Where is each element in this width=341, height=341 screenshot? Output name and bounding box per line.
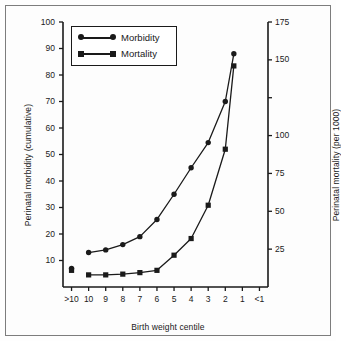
data-point-mortality: [154, 268, 159, 273]
legend-entry-mortality: Mortality: [78, 46, 157, 62]
data-point-morbidity: [231, 51, 236, 56]
data-point-mortality: [206, 203, 211, 208]
x-axis-title: Birth weight centile: [0, 322, 336, 332]
data-point-morbidity: [188, 165, 193, 170]
y-axis-left-tick-label: 100: [29, 17, 55, 27]
series-line-mortality: [89, 66, 234, 275]
y-axis-right-tick-label: 75: [275, 168, 305, 178]
y-axis-left-tick-label: 80: [29, 70, 55, 80]
y-axis-right-tick-label: 100: [275, 130, 305, 140]
data-point-morbidity: [171, 192, 176, 197]
y-axis-right-tick-label: 150: [275, 54, 305, 64]
chart-legend: Morbidity Mortality: [71, 26, 177, 66]
legend-label-morbidity: Morbidity: [121, 33, 160, 43]
y-axis-left-tick-label: 70: [29, 96, 55, 106]
data-point-mortality: [86, 272, 91, 277]
y-axis-right-tick-label: 25: [275, 244, 305, 254]
y-axis-left-tick-label: 10: [29, 255, 55, 265]
y-axis-left-tick-label: 60: [29, 123, 55, 133]
y-axis-right-tick-label: 50: [275, 206, 305, 216]
series-line-morbidity: [89, 54, 234, 253]
data-point-morbidity: [120, 242, 125, 247]
data-point-morbidity: [223, 99, 228, 104]
legend-marker-square-icon: [78, 48, 116, 60]
data-point-morbidity: [86, 250, 91, 255]
data-point-morbidity: [206, 140, 211, 145]
data-point-mortality: [137, 270, 142, 275]
data-point-mortality: [231, 63, 236, 68]
data-point-mortality: [120, 272, 125, 277]
data-point-mortality: [103, 272, 108, 277]
data-point-morbidity: [103, 247, 108, 252]
data-point-mortality: [223, 147, 228, 152]
y-axis-left-tick-label: 20: [29, 229, 55, 239]
data-point-morbidity: [137, 234, 142, 239]
legend-marker-circle-icon: [78, 32, 116, 44]
legend-entry-morbidity: Morbidity: [78, 30, 160, 46]
y-axis-right-title: Perinatal mortality (per 1000): [331, 65, 341, 265]
y-axis-left-tick-label: 40: [29, 176, 55, 186]
data-point-morbidity: [154, 217, 159, 222]
y-axis-right-tick-label: 175: [275, 17, 305, 27]
data-point-mortality: [171, 253, 176, 258]
y-axis-left-tick-label: 90: [29, 43, 55, 53]
legend-label-mortality: Mortality: [121, 49, 157, 59]
data-point-mortality: [69, 268, 74, 273]
y-axis-left-tick-label: 50: [29, 149, 55, 159]
data-point-mortality: [189, 236, 194, 241]
y-axis-left-tick-label: 30: [29, 202, 55, 212]
x-axis-tick-label: <1: [247, 294, 271, 304]
